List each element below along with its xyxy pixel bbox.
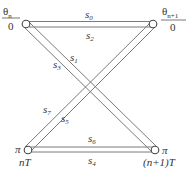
node-bottom-left [24, 146, 32, 154]
edge-label-s2: s2 [86, 29, 94, 43]
edge-top [28, 22, 151, 28]
label-bottom-right-time: (n+1)T [143, 156, 176, 169]
edge-label-s1: s1 [70, 51, 78, 65]
label-bottom-left-pi: π [15, 143, 21, 155]
trellis-diagram: θn 0 θn+1 0 π nT π (n+1)T s0 s2 s1 s3 s7… [0, 0, 191, 170]
label-bottom-right-pi: π [162, 144, 168, 156]
label-top-left: θn 0 [2, 5, 20, 32]
edge-label-s7: s7 [43, 103, 51, 117]
node-top-right [149, 20, 157, 28]
svg-text:0: 0 [170, 21, 176, 33]
label-top-right: θn+1 0 [161, 5, 186, 33]
svg-text:θn: θn [3, 5, 12, 20]
label-bottom-left-time: nT [19, 156, 32, 168]
svg-text:0: 0 [8, 20, 14, 32]
svg-text:θn+1: θn+1 [162, 5, 179, 20]
edge-label-s6: s6 [88, 132, 96, 146]
edge-label-s0: s0 [85, 8, 93, 22]
node-top-left [22, 20, 30, 28]
edge-label-s4: s4 [88, 154, 96, 168]
edge-bottom [31, 147, 153, 152]
edge-label-s3: s3 [53, 58, 61, 72]
node-bottom-right [151, 146, 159, 154]
